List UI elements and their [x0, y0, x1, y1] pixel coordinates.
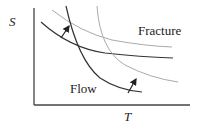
curve-flow-initial	[66, 6, 142, 92]
diagram-canvas	[0, 0, 201, 128]
fracture-shift-arrow	[61, 26, 69, 38]
curve-fracture-initial	[41, 22, 173, 58]
